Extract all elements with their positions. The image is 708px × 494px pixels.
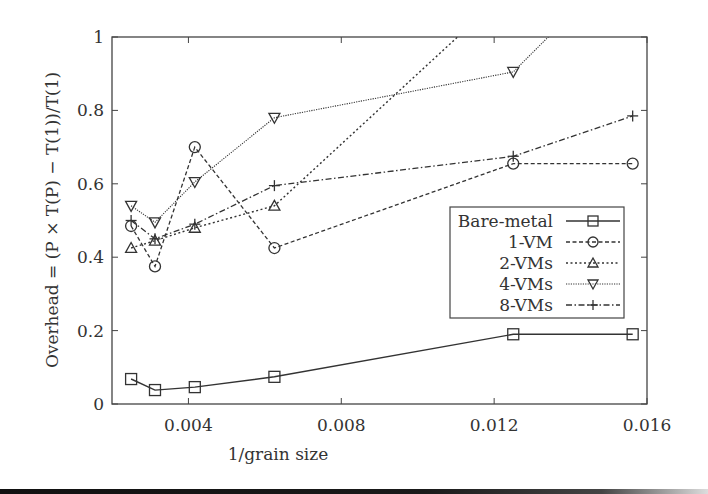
- data-series: [131, 0, 633, 390]
- x-tick-label: 0.016: [623, 415, 672, 435]
- line-chart: 00.20.40.60.81 0.0040.0080.0120.016 Over…: [0, 0, 708, 494]
- series-line: [131, 0, 633, 222]
- y-tick-label: 1: [93, 27, 104, 47]
- y-tick-label: 0.4: [77, 247, 104, 267]
- legend-label: 1-VM: [508, 232, 553, 252]
- x-tick-label: 0.008: [317, 415, 366, 435]
- y-axis-title: Overhead = (P × T(P) − T(1))/T(1): [42, 72, 62, 368]
- legend: Bare-metal1-VM2-VMs4-VMs8-VMs: [450, 207, 624, 318]
- y-tick-label: 0: [93, 394, 104, 414]
- legend-label: 4-VMs: [499, 274, 553, 294]
- x-tick-label: 0.004: [164, 415, 213, 435]
- legend-label: Bare-metal: [458, 211, 553, 231]
- y-tick-label: 0.8: [77, 100, 104, 120]
- x-tick-label: 0.012: [470, 415, 519, 435]
- legend-label: 8-VMs: [499, 295, 553, 315]
- y-tick-label: 0.6: [77, 174, 104, 194]
- series-line: [131, 334, 633, 390]
- legend-label: 2-VMs: [499, 253, 553, 273]
- page-edge-band: [0, 489, 708, 494]
- y-tick-label: 0.2: [77, 321, 104, 341]
- x-axis-title: 1/grain size: [228, 444, 329, 464]
